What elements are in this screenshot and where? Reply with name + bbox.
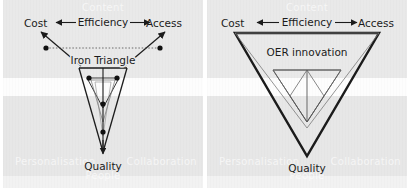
label-quality-left-panel: Quality — [84, 160, 122, 172]
panel-iron-triangle: Content Personalisation Collaboration Pe… — [3, 0, 203, 188]
inner-sub-triangle-right-right-panel — [307, 70, 341, 96]
oer-innovation-diagram: Cost Access Efficiency OER innovation Qu… — [207, 0, 407, 188]
label-efficiency-left-panel: Efficiency — [78, 16, 129, 28]
inner-sub-triangle-left-right-panel — [273, 70, 307, 96]
vertex-dot-inner-left-left-panel — [86, 75, 91, 80]
label-quality-right-panel: Quality — [288, 162, 326, 174]
label-access-left-panel: Access — [146, 17, 182, 29]
label-oer-innovation: OER innovation — [267, 46, 348, 58]
figure-root: Content Personalisation Collaboration Pe… — [0, 0, 407, 188]
panel-oer-innovation: Content Personalisation Collaboration Pe… — [207, 0, 407, 188]
label-cost-left-panel: Cost — [24, 17, 47, 29]
label-access-right-panel: Access — [358, 17, 394, 29]
vertex-dot-inner-right-left-panel — [114, 75, 119, 80]
iron-triangle-diagram: Cost Access Efficiency — [3, 0, 203, 188]
label-iron-triangle: Iron Triangle — [71, 54, 136, 66]
label-cost-right-panel: Cost — [221, 17, 244, 29]
vertex-dot-upper-left-left-panel — [43, 45, 48, 50]
vertex-dot-upper-right-left-panel — [157, 45, 162, 50]
vertex-dot-lower-left-panel — [100, 129, 105, 134]
label-efficiency-right-panel: Efficiency — [282, 16, 333, 28]
vertex-dot-mid-left-panel — [100, 101, 105, 106]
